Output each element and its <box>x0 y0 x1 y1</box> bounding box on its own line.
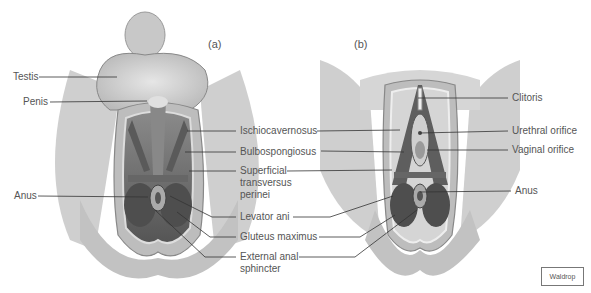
artist-credit-box: Waldrop <box>541 267 584 286</box>
label-anus-female: Anus <box>515 185 538 197</box>
label-penis: Penis <box>23 96 48 108</box>
label-line-3: perinei <box>240 189 292 201</box>
label-line-1: Superficial <box>240 165 292 177</box>
label-vaginal-orifice: Vaginal orifice <box>512 144 574 156</box>
label-gluteus-maximus: Gluteus maximus <box>240 231 317 243</box>
label-external-anal-sphincter: External anal sphincter <box>240 251 298 275</box>
label-line-2: sphincter <box>240 263 298 275</box>
label-bulbospongiosus: Bulbospongiosus <box>240 146 316 158</box>
female-perineum-figure <box>320 60 520 276</box>
label-testis: Testis <box>13 71 39 83</box>
label-line-2: transversus <box>240 177 292 189</box>
male-perineum-figure <box>55 12 259 278</box>
label-urethral-orifice: Urethral orifice <box>512 125 577 137</box>
label-superficial-transversus-perinei: Superficial transversus perinei <box>240 165 292 201</box>
label-line-1: External anal <box>240 251 298 263</box>
label-ischiocavernosus: Ischiocavernosus <box>240 125 317 137</box>
panel-tag-a: (a) <box>208 38 221 50</box>
panel-tag-b: (b) <box>354 38 367 50</box>
label-clitoris: Clitoris <box>512 92 543 104</box>
label-levator-ani: Levator ani <box>240 211 289 223</box>
label-anus-male: Anus <box>14 190 37 202</box>
